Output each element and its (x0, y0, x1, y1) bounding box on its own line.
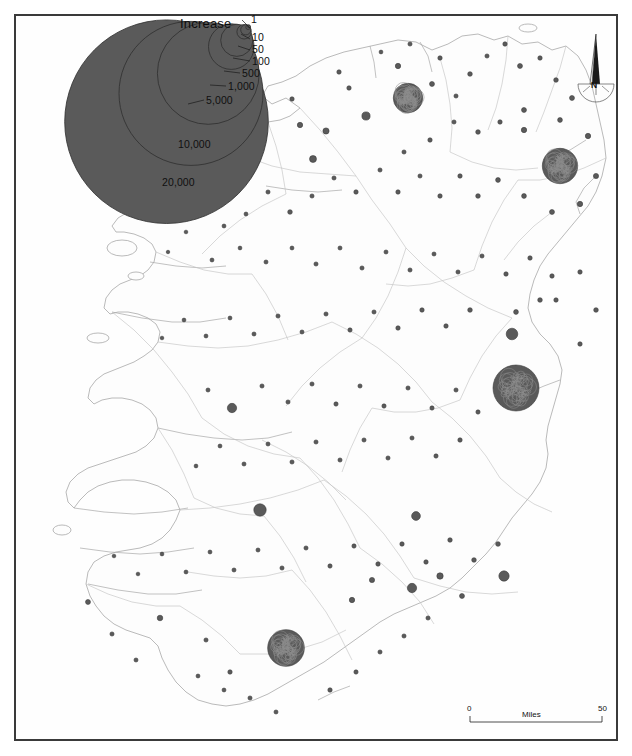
symbol-circle[interactable] (254, 504, 266, 516)
symbol-circle[interactable] (468, 308, 473, 313)
symbol-circle[interactable] (276, 314, 280, 318)
symbol-circle[interactable] (499, 571, 509, 581)
symbol-circle[interactable] (578, 342, 582, 346)
symbol-circle[interactable] (204, 334, 208, 338)
symbol-circle[interactable] (434, 454, 438, 458)
symbol-circle[interactable] (323, 128, 329, 134)
symbol-circle[interactable] (420, 308, 424, 312)
symbol-circle[interactable] (456, 270, 460, 274)
symbol-circle[interactable] (506, 328, 518, 340)
symbol-circle[interactable] (210, 258, 214, 262)
symbol-circle[interactable] (324, 312, 328, 316)
symbol-circle[interactable] (558, 118, 563, 123)
symbol-circle[interactable] (372, 310, 376, 314)
symbol-circle[interactable] (476, 410, 480, 414)
symbol-circle[interactable] (454, 388, 458, 392)
symbol-circle[interactable] (362, 438, 366, 442)
symbol-circle[interactable] (378, 650, 382, 654)
symbol-circle[interactable] (594, 308, 599, 313)
symbol-circle[interactable] (334, 402, 338, 406)
symbol-circle[interactable] (290, 97, 294, 101)
symbol-circle[interactable] (480, 254, 484, 258)
symbol-circle[interactable] (514, 310, 519, 315)
symbol-circle[interactable] (136, 572, 140, 576)
symbol-circle[interactable] (348, 328, 352, 332)
symbol-circle[interactable] (184, 230, 188, 234)
symbol-circle[interactable] (256, 548, 260, 552)
map-canvas[interactable] (0, 0, 632, 756)
symbol-circle[interactable] (290, 246, 294, 250)
symbol-circle[interactable] (396, 190, 400, 194)
symbol-circle[interactable] (166, 250, 170, 254)
symbol-circle[interactable] (86, 600, 91, 605)
symbol-circle[interactable] (314, 262, 318, 266)
symbol-circle[interactable] (400, 542, 404, 546)
symbol-circle[interactable] (328, 688, 332, 692)
symbol-circle[interactable] (332, 176, 336, 180)
symbol-circle[interactable] (408, 42, 412, 46)
symbol-circle[interactable] (438, 194, 442, 198)
symbol-circle[interactable] (408, 268, 412, 272)
symbol-circle[interactable] (410, 436, 414, 440)
symbol-circle[interactable] (300, 330, 304, 334)
symbol-circle[interactable] (476, 130, 481, 135)
symbol-circle[interactable] (538, 298, 543, 303)
symbol-circle[interactable] (266, 442, 270, 446)
symbol-circle[interactable] (286, 400, 290, 404)
symbol-circle[interactable] (402, 634, 406, 638)
symbol-circle[interactable] (244, 212, 248, 216)
symbol-circle[interactable] (204, 638, 208, 642)
symbol-circle[interactable] (184, 570, 188, 574)
symbol-circle[interactable] (354, 190, 358, 194)
symbol-circle[interactable] (550, 274, 554, 278)
symbol-circle[interactable] (360, 266, 364, 270)
symbol-circle[interactable] (444, 324, 448, 328)
symbol-circle[interactable] (354, 670, 358, 674)
symbol-circle[interactable] (310, 382, 314, 386)
symbol-circle[interactable] (242, 462, 246, 466)
symbol-circle[interactable] (430, 82, 435, 87)
symbol-circle[interactable] (430, 406, 434, 410)
symbol-circle[interactable] (238, 246, 242, 250)
symbol-circle[interactable] (274, 710, 278, 714)
symbol-circle[interactable] (472, 558, 477, 563)
symbol-circle[interactable] (396, 326, 400, 330)
symbol-circle[interactable] (222, 224, 226, 228)
symbol-circle[interactable] (328, 564, 332, 568)
symbol-circle[interactable] (522, 194, 527, 199)
symbol-circle[interactable] (194, 464, 198, 468)
symbol-circle[interactable] (352, 544, 356, 548)
symbol-circle[interactable] (395, 63, 400, 68)
symbol-circle[interactable] (438, 56, 442, 60)
symbol-circle[interactable] (458, 438, 462, 442)
symbol-circle[interactable] (468, 72, 473, 77)
symbol-circle[interactable] (418, 174, 422, 178)
symbol-circle[interactable] (297, 122, 302, 127)
symbol-circle[interactable] (310, 156, 317, 163)
symbol-circle[interactable] (362, 112, 370, 120)
symbol-circle[interactable] (550, 210, 555, 215)
symbol-circle[interactable] (386, 456, 390, 460)
symbol-circle[interactable] (485, 54, 489, 58)
symbol-circle[interactable] (402, 150, 406, 154)
symbol-circle[interactable] (521, 127, 526, 132)
symbol-circle[interactable] (498, 120, 502, 124)
symbol-circle[interactable] (578, 270, 582, 274)
symbol-circle[interactable] (280, 566, 284, 570)
symbol-circle[interactable] (266, 190, 270, 194)
symbol-circle[interactable] (538, 56, 542, 60)
symbol-circle[interactable] (554, 78, 559, 83)
symbol-circle[interactable] (496, 178, 501, 183)
symbol-circle[interactable] (460, 594, 465, 599)
symbol-circle[interactable] (504, 272, 508, 276)
symbol-circle[interactable] (338, 458, 342, 462)
symbol-circle[interactable] (376, 562, 380, 566)
symbol-circle[interactable] (310, 194, 314, 198)
symbol-circle[interactable] (304, 546, 308, 550)
symbol-circle[interactable] (160, 336, 164, 340)
symbol-circle[interactable] (349, 597, 354, 602)
symbol-circle[interactable] (458, 174, 462, 178)
symbol-circle[interactable] (412, 512, 421, 521)
symbol-circle[interactable] (570, 96, 575, 101)
symbol-circle[interactable] (228, 670, 232, 674)
